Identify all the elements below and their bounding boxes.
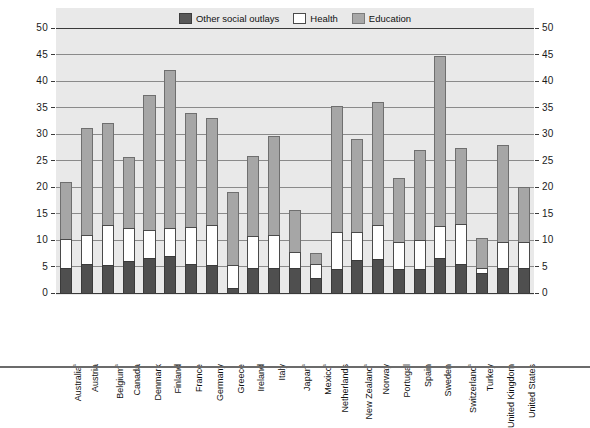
bar-segment-health xyxy=(351,232,363,260)
y-tick-mark-left-10 xyxy=(51,240,55,241)
bar-segment-othersocialoutlays xyxy=(518,268,530,293)
y-tick-label-right-40: 40 xyxy=(542,76,570,86)
bar-segment-education xyxy=(164,70,176,227)
bar-turkey xyxy=(476,238,488,293)
bar-segment-education xyxy=(393,178,405,242)
bar-segment-health xyxy=(185,227,197,264)
x-axis-label-france: France xyxy=(195,364,204,392)
x-axis-label-unitedstates: United States xyxy=(528,364,537,418)
y-tick-mark-right-10 xyxy=(535,240,539,241)
bar-segment-health xyxy=(164,228,176,256)
chart-legend: Other social outlays Health Education xyxy=(56,8,534,28)
y-tick-mark-right-5 xyxy=(535,266,539,267)
bar-segment-othersocialoutlays xyxy=(102,265,114,293)
bar-segment-othersocialoutlays xyxy=(164,256,176,293)
bar-france xyxy=(185,113,197,293)
bar-norway xyxy=(372,102,384,293)
x-axis-label-portugal: Portugal xyxy=(403,364,412,398)
bar-segment-education xyxy=(60,182,72,240)
bar-segment-education xyxy=(331,106,343,232)
bar-ireland xyxy=(247,156,259,293)
bar-segment-othersocialoutlays xyxy=(60,268,72,293)
x-axis-label-japan: Japan¹ xyxy=(299,364,312,391)
bar-segment-health xyxy=(60,239,72,268)
y-tick-mark-right-0 xyxy=(535,293,539,294)
y-tick-mark-right-50 xyxy=(535,28,539,29)
y-tick-label-right-25: 25 xyxy=(542,156,570,166)
x-axis-label-newzealand: New Zealand¹ xyxy=(361,364,374,419)
bar-switzerland xyxy=(455,148,467,293)
y-tick-mark-right-35 xyxy=(535,107,539,108)
bar-italy xyxy=(268,136,280,293)
bar-segment-education xyxy=(247,156,259,236)
bar-segment-othersocialoutlays xyxy=(247,268,259,293)
bar-segment-othersocialoutlays xyxy=(206,265,218,293)
bar-belgium xyxy=(102,123,114,293)
bar-segment-othersocialoutlays xyxy=(455,264,467,293)
bar-segment-education xyxy=(351,139,363,231)
bar-finland xyxy=(164,70,176,293)
legend-label-health: Health xyxy=(310,13,337,24)
bar-segment-education xyxy=(414,150,426,240)
bar-segment-health xyxy=(455,224,467,265)
bottom-rule xyxy=(0,366,590,368)
y-tick-label-right-45: 45 xyxy=(542,50,570,60)
bar-newzealand xyxy=(351,139,363,293)
y-tick-label-right-15: 15 xyxy=(542,209,570,219)
legend-item-other-social-outlays: Other social outlays xyxy=(179,13,279,24)
bar-segment-health xyxy=(497,242,509,269)
bar-netherlands xyxy=(331,106,343,293)
bar-segment-education xyxy=(372,102,384,225)
bar-portugal xyxy=(393,178,405,293)
bar-segment-health xyxy=(331,232,343,269)
y-tick-mark-right-20 xyxy=(535,187,539,188)
y-tick-label-right-35: 35 xyxy=(542,103,570,113)
bar-segment-education xyxy=(518,187,530,242)
y-tick-label-left-35: 35 xyxy=(22,103,48,113)
bar-segment-education xyxy=(268,136,280,235)
x-axis-label-turkey: Turkey xyxy=(486,364,495,391)
bar-japan xyxy=(289,210,301,293)
y-tick-label-left-15: 15 xyxy=(22,209,48,219)
bar-spain xyxy=(414,150,426,293)
y-tick-label-left-30: 30 xyxy=(22,129,48,139)
bar-segment-othersocialoutlays xyxy=(476,273,488,293)
bar-austria xyxy=(81,128,93,293)
bar-canada xyxy=(123,157,135,293)
bar-segment-education xyxy=(185,113,197,227)
y-tick-mark-right-25 xyxy=(535,160,539,161)
bar-sweden xyxy=(434,56,446,293)
x-axis-label-canada: Canada xyxy=(133,364,142,396)
y-tick-mark-left-45 xyxy=(51,54,55,55)
bar-mexico xyxy=(310,253,322,293)
y-tick-mark-left-50 xyxy=(51,28,55,29)
bar-segment-health xyxy=(393,242,405,269)
y-tick-mark-left-15 xyxy=(51,213,55,214)
bar-segment-othersocialoutlays xyxy=(123,261,135,293)
x-axis-label-ireland: Ireland xyxy=(257,364,266,392)
bar-segment-education xyxy=(206,118,218,225)
bar-segment-education xyxy=(227,192,239,265)
bar-segment-othersocialoutlays xyxy=(268,268,280,293)
y-tick-mark-left-20 xyxy=(51,187,55,188)
bar-australia xyxy=(60,182,72,293)
y-tick-mark-right-15 xyxy=(535,213,539,214)
x-axis-label-denmark: Denmark xyxy=(154,364,163,401)
y-tick-label-left-25: 25 xyxy=(22,156,48,166)
bar-segment-othersocialoutlays xyxy=(497,268,509,293)
y-tick-mark-left-30 xyxy=(51,134,55,135)
y-tick-mark-left-35 xyxy=(51,107,55,108)
bar-segment-othersocialoutlays xyxy=(434,258,446,293)
bar-segment-education xyxy=(102,123,114,225)
y-tick-mark-left-0 xyxy=(51,293,55,294)
bar-segment-health xyxy=(518,242,530,268)
bar-segment-education xyxy=(123,157,135,229)
legend-swatch-other-social-outlays xyxy=(179,13,192,24)
y-tick-label-left-10: 10 xyxy=(22,235,48,245)
x-axis-label-greece: Greece xyxy=(237,364,246,394)
bar-segment-othersocialoutlays xyxy=(414,269,426,293)
x-axis-label-austria: Austria xyxy=(91,364,100,392)
bar-unitedstates xyxy=(518,187,530,293)
bar-segment-health xyxy=(81,235,93,265)
